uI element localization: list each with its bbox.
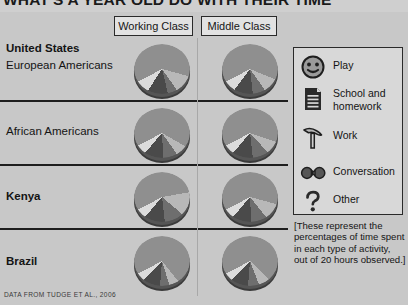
footnote-text: [These represent the percentages of time… [294,220,406,266]
legend-item-school-and-homework: School and homework [300,86,402,112]
row-divider [0,228,288,230]
legend-label: Other [333,188,359,206]
row-divider [0,164,288,166]
source-credit: DATA FROM TUDGE ET AL., 2006 [4,291,116,298]
legend-item-conversation: Conversation [300,160,395,186]
pie-chart [134,236,190,292]
pie-chart [222,108,278,164]
legend-label: Play [333,54,353,72]
row-label-european-americans: European Americans [6,59,113,71]
pie-chart [134,44,190,100]
legend-label: School and homework [333,86,402,112]
column-header-label: Working Class [118,20,189,32]
row-label-brazil: Brazil [6,255,37,267]
column-header-middle-class: Middle Class [201,16,277,36]
row-label-united-states: United States [6,42,80,54]
row-label-kenya: Kenya [6,190,41,202]
two-heads-talking-icon [300,160,326,186]
hammer-icon [300,124,326,150]
column-divider [197,38,198,296]
legend-item-other: Other [300,188,359,214]
legend-label: Work [333,124,357,142]
pie-chart [134,108,190,164]
pie-chart [134,172,190,228]
pie-chart [222,236,278,292]
pie-chart [222,172,278,228]
infographic-figure: WHAT'S A YEAR OLD DO WITH THEIR TIME Wor… [0,0,408,305]
column-header-working-class: Working Class [114,16,193,36]
legend-item-work: Work [300,124,357,150]
row-divider [0,100,288,102]
document-icon [300,86,326,112]
smiley-face-icon [300,54,326,80]
row-label-african-americans: African Americans [6,125,99,137]
pie-chart [222,44,278,100]
column-header-label: Middle Class [208,20,271,32]
figure-title: WHAT'S A YEAR OLD DO WITH THEIR TIME [3,0,332,9]
legend-box: Play School and homework Work [293,47,403,215]
question-mark-icon [300,188,326,214]
legend-item-play: Play [300,54,353,80]
legend-label: Conversation [333,160,395,178]
